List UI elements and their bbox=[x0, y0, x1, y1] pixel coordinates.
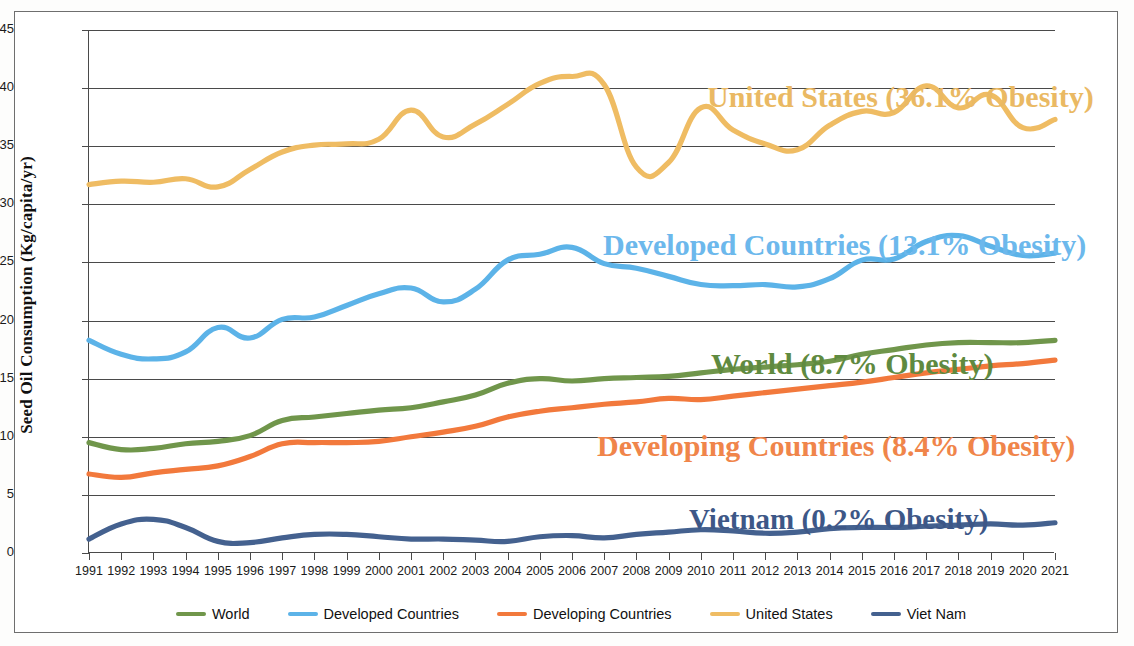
annotation-developing-countries: Developing Countries (8.4% Obesity) bbox=[597, 429, 1075, 463]
annotation-developed-countries: Developed Countries (13.1% Obesity) bbox=[603, 228, 1086, 262]
x-tick-mark bbox=[475, 553, 476, 560]
x-tick-mark bbox=[347, 553, 348, 560]
y-tick-mark bbox=[82, 379, 89, 380]
y-tick-mark bbox=[82, 437, 89, 438]
legend-label: Developed Countries bbox=[324, 606, 459, 622]
legend-label: World bbox=[212, 606, 250, 622]
y-tick-label: 40 bbox=[0, 79, 14, 94]
plot-area: 051015202530354045 199119921993199419951… bbox=[88, 30, 1054, 553]
x-tick-mark bbox=[1023, 553, 1024, 560]
y-tick-mark bbox=[82, 495, 89, 496]
x-tick-label: 2021 bbox=[1032, 564, 1078, 578]
x-tick-mark bbox=[411, 553, 412, 560]
legend-item-developing-countries[interactable]: Developing Countries bbox=[497, 606, 672, 622]
annotation-world: World (8.7% Obesity) bbox=[711, 347, 994, 381]
x-tick-mark bbox=[765, 553, 766, 560]
x-tick-mark bbox=[379, 553, 380, 560]
y-tick-label: 35 bbox=[0, 137, 14, 152]
x-tick-mark bbox=[121, 553, 122, 560]
x-tick-mark bbox=[669, 553, 670, 560]
x-tick-mark bbox=[1055, 553, 1056, 560]
y-tick-mark bbox=[82, 146, 89, 147]
y-tick-label: 45 bbox=[0, 21, 14, 36]
x-tick-mark bbox=[862, 553, 863, 560]
y-tick-label: 10 bbox=[0, 428, 14, 443]
legend-swatch-icon bbox=[497, 612, 527, 616]
legend-item-developed-countries[interactable]: Developed Countries bbox=[288, 606, 459, 622]
y-tick-label: 0 bbox=[0, 544, 14, 559]
x-tick-mark bbox=[540, 553, 541, 560]
y-tick-label: 20 bbox=[0, 312, 14, 327]
y-tick-label: 5 bbox=[0, 486, 14, 501]
annotation-vietnam: Vietnam (0.2% Obesity) bbox=[689, 503, 988, 536]
y-tick-label: 25 bbox=[0, 253, 14, 268]
x-tick-mark bbox=[572, 553, 573, 560]
x-tick-mark bbox=[508, 553, 509, 560]
legend-label: Viet Nam bbox=[907, 606, 966, 622]
x-tick-mark bbox=[636, 553, 637, 560]
x-tick-mark bbox=[218, 553, 219, 560]
legend-label: United States bbox=[746, 606, 833, 622]
legend-swatch-icon bbox=[176, 612, 206, 616]
x-tick-mark bbox=[701, 553, 702, 560]
chart-figure: Seed Oil Consumption per Capita, Selecte… bbox=[0, 0, 1134, 646]
x-tick-mark bbox=[153, 553, 154, 560]
x-tick-mark bbox=[991, 553, 992, 560]
x-tick-mark bbox=[314, 553, 315, 560]
x-tick-mark bbox=[894, 553, 895, 560]
x-tick-mark bbox=[926, 553, 927, 560]
annotation-united-states: United States (36.1% Obesity) bbox=[707, 80, 1094, 114]
legend-swatch-icon bbox=[710, 612, 740, 616]
y-tick-mark bbox=[82, 321, 89, 322]
x-tick-mark bbox=[250, 553, 251, 560]
y-tick-mark bbox=[82, 88, 89, 89]
x-tick-mark bbox=[604, 553, 605, 560]
y-tick-mark bbox=[82, 553, 89, 554]
x-tick-mark bbox=[797, 553, 798, 560]
y-tick-mark bbox=[82, 204, 89, 205]
y-axis-label: Seed Oil Consumption (Kg/capita/yr) bbox=[17, 35, 37, 555]
x-tick-mark bbox=[443, 553, 444, 560]
y-tick-label: 30 bbox=[0, 195, 14, 210]
x-tick-mark bbox=[282, 553, 283, 560]
y-tick-label: 15 bbox=[0, 370, 14, 385]
y-tick-mark bbox=[82, 262, 89, 263]
x-tick-mark bbox=[186, 553, 187, 560]
legend-swatch-icon bbox=[871, 612, 901, 616]
x-tick-mark bbox=[958, 553, 959, 560]
x-tick-mark bbox=[733, 553, 734, 560]
legend-label: Developing Countries bbox=[533, 606, 672, 622]
x-tick-mark bbox=[89, 553, 90, 560]
legend-item-world[interactable]: World bbox=[176, 606, 250, 622]
legend-item-united-states[interactable]: United States bbox=[710, 606, 833, 622]
legend-swatch-icon bbox=[288, 612, 318, 616]
legend-item-viet-nam[interactable]: Viet Nam bbox=[871, 606, 966, 622]
chart-legend: WorldDeveloped CountriesDeveloping Count… bbox=[88, 602, 1054, 626]
x-tick-mark bbox=[830, 553, 831, 560]
y-tick-mark bbox=[82, 30, 89, 31]
